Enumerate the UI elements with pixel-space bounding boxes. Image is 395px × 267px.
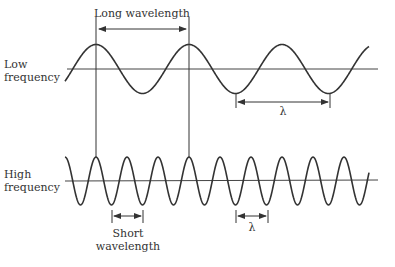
high-frequency-label-line2: frequency [4, 181, 60, 194]
high-frequency-label-line1: High [4, 168, 31, 181]
high-frequency-axis [65, 180, 378, 181]
low-frequency-label-line1: Low [4, 58, 27, 71]
high-lambda-label: λ [242, 221, 262, 234]
wavelength-frequency-diagram: Long wavelength Low frequency High frequ… [0, 0, 395, 267]
long-wavelength-label: Long wavelength [92, 7, 192, 20]
short-wavelength-label-line1: Short [88, 227, 168, 240]
low-lambda-label: λ [273, 105, 293, 118]
short-wavelength-label-line2: wavelength [88, 240, 168, 253]
diagram-graphics [0, 0, 395, 267]
low-frequency-label-line2: frequency [4, 71, 60, 84]
